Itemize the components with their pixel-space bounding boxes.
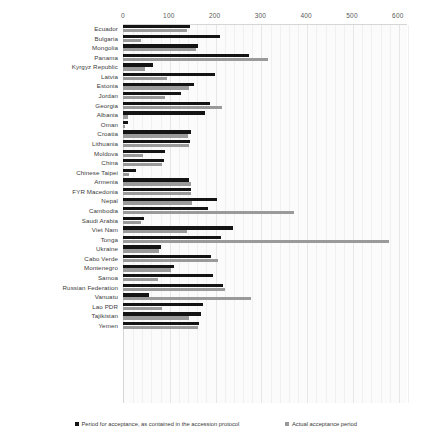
category-label: Viet Nam — [0, 225, 118, 235]
bar-protocol — [123, 217, 144, 220]
bar-group — [123, 139, 407, 149]
x-axis-tick: 400 — [300, 12, 311, 19]
bar-row: Chinese Taipei — [0, 168, 432, 178]
bar-actual — [123, 115, 128, 118]
category-label: Latvia — [0, 72, 118, 82]
category-label: China — [0, 158, 118, 168]
category-label: Armenia — [0, 177, 118, 187]
category-label: Jordan — [0, 91, 118, 101]
bar-group — [123, 235, 407, 245]
bar-actual — [123, 96, 165, 99]
category-label: Lao PDR — [0, 302, 118, 312]
bar-protocol — [123, 312, 201, 315]
bar-group — [123, 91, 407, 101]
bar-actual — [123, 154, 143, 157]
bar-group — [123, 177, 407, 187]
bar-group — [123, 158, 407, 168]
bar-actual — [123, 288, 225, 291]
bar-protocol — [123, 44, 198, 47]
bar-actual — [123, 58, 268, 61]
bar-group — [123, 62, 407, 72]
bar-group — [123, 101, 407, 111]
bar-row: Latvia — [0, 72, 432, 82]
category-label: Georgia — [0, 101, 118, 111]
bar-actual — [123, 29, 187, 32]
bar-actual — [123, 134, 188, 137]
legend-swatch-actual-icon — [285, 422, 289, 426]
bar-protocol — [123, 83, 194, 86]
bar-protocol — [123, 54, 249, 57]
bar-row: Jordan — [0, 91, 432, 101]
bar-actual — [123, 307, 162, 310]
bar-protocol — [123, 322, 199, 325]
bar-actual — [123, 86, 189, 89]
bar-group — [123, 292, 407, 302]
bar-row: Vanuatu — [0, 292, 432, 302]
bar-protocol — [123, 159, 164, 162]
bar-group — [123, 206, 407, 216]
bar-group — [123, 196, 407, 206]
category-label: Lithuania — [0, 139, 118, 149]
x-axis-tick: 200 — [209, 12, 220, 19]
x-axis-tick: 0 — [121, 12, 125, 19]
category-label: Tonga — [0, 235, 118, 245]
bar-row: Tajikistan — [0, 311, 432, 321]
category-label: Chinese Taipei — [0, 168, 118, 178]
bar-actual — [123, 316, 189, 319]
bar-row: Estonia — [0, 81, 432, 91]
bar-protocol — [123, 169, 136, 172]
bar-actual — [123, 48, 196, 51]
category-label: Mongolia — [0, 43, 118, 53]
bar-group — [123, 43, 407, 53]
bar-protocol — [123, 284, 223, 287]
bar-actual — [123, 249, 159, 252]
bar-protocol — [123, 236, 221, 239]
bar-row: Samoa — [0, 273, 432, 283]
category-label: Ukraine — [0, 244, 118, 254]
category-label: Cabo Verde — [0, 254, 118, 264]
bar-actual — [123, 297, 251, 300]
x-axis-tick: 600 — [392, 12, 403, 19]
category-label: Saudi Arabia — [0, 216, 118, 226]
category-label: Tajikistan — [0, 311, 118, 321]
bar-actual — [123, 106, 222, 109]
legend-swatch-protocol-icon — [75, 422, 79, 426]
bar-row: FYR Macedonia — [0, 187, 432, 197]
bar-protocol — [123, 245, 161, 248]
bar-group — [123, 110, 407, 120]
bar-protocol — [123, 255, 211, 258]
category-label: Nepal — [0, 196, 118, 206]
bar-actual — [123, 163, 162, 166]
category-label: Yemen — [0, 321, 118, 331]
bar-actual — [123, 221, 141, 224]
x-axis-tick: 500 — [346, 12, 357, 19]
bar-actual — [123, 268, 171, 271]
bar-row: Moldova — [0, 149, 432, 159]
bar-row: Tonga — [0, 235, 432, 245]
bar-protocol — [123, 293, 149, 296]
bar-actual — [123, 211, 294, 214]
bar-row: Saudi Arabia — [0, 216, 432, 226]
bar-group — [123, 53, 407, 63]
bar-actual — [123, 144, 189, 147]
bar-actual — [123, 201, 192, 204]
legend-item-actual: Actual acceptance period — [285, 421, 357, 427]
bar-actual — [123, 230, 187, 233]
bar-actual — [123, 192, 191, 195]
bar-actual — [123, 278, 158, 281]
bar-row: Panama — [0, 53, 432, 63]
bar-row: Lithuania — [0, 139, 432, 149]
bar-row: Nepal — [0, 196, 432, 206]
bar-row: Georgia — [0, 101, 432, 111]
bar-actual — [123, 326, 198, 329]
bar-row: Montenegro — [0, 263, 432, 273]
bar-row: Viet Nam — [0, 225, 432, 235]
bar-protocol — [123, 92, 181, 95]
bar-group — [123, 311, 407, 321]
bar-group — [123, 120, 407, 130]
x-axis-tick: 300 — [255, 12, 266, 19]
bar-protocol — [123, 178, 189, 181]
bar-protocol — [123, 265, 174, 268]
category-label: Ecuador — [0, 24, 118, 34]
bar-row: China — [0, 158, 432, 168]
